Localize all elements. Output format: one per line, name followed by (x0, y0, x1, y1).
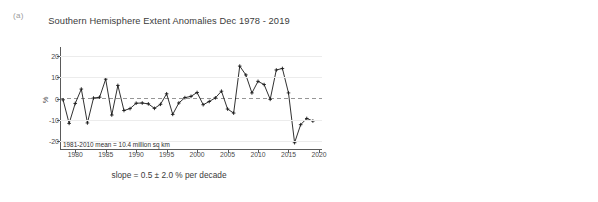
chart-a-y-tick-label: -10 (49, 116, 59, 123)
chart-a-title: Southern Hemisphere Extent Anomalies Dec… (0, 16, 338, 26)
chart-a-x-tick-label: 2005 (220, 151, 235, 158)
panel-b: (b) Extent (Millions of square kilometer… (338, 0, 598, 202)
chart-a-x-tick-label: 1985 (98, 151, 113, 158)
chart-a-x-tick-label: 1990 (129, 151, 144, 158)
chart-a-plot-area: 1981-2010 mean = 10.4 million sq km 2010… (60, 47, 322, 150)
chart-a-caption: slope = 0.5 ± 2.0 % per decade (0, 170, 338, 180)
chart-a-series-svg (60, 47, 322, 150)
chart-a-gridline (60, 77, 322, 78)
chart-a-y-tick-label: 0 (55, 95, 59, 102)
chart-a-x-tick-label: 2000 (190, 151, 205, 158)
chart-a-y-axis-label: % (41, 97, 50, 104)
figure-root: (a) Southern Hemisphere Extent Anomalies… (0, 0, 598, 202)
chart-a-gridline (60, 56, 322, 57)
chart-a-x-tick-label: 2010 (250, 151, 265, 158)
chart-a-y-tick-label: 10 (51, 74, 59, 81)
chart-a-y-tick-label: -20 (49, 138, 59, 145)
panel-a: (a) Southern Hemisphere Extent Anomalies… (0, 0, 338, 202)
chart-a-x-axis (60, 149, 322, 150)
chart-a-gridline (60, 141, 322, 142)
chart-a-x-tick-label: 2020 (311, 151, 326, 158)
chart-a-y-axis (60, 47, 61, 150)
chart-a-x-tick-label: 1995 (159, 151, 174, 158)
chart-a-gridline (60, 120, 322, 121)
chart-a-y-tick-label: 20 (51, 52, 59, 59)
chart-a-x-tick-label: 1980 (68, 151, 83, 158)
chart-a-x-tick-label: 2015 (281, 151, 296, 158)
